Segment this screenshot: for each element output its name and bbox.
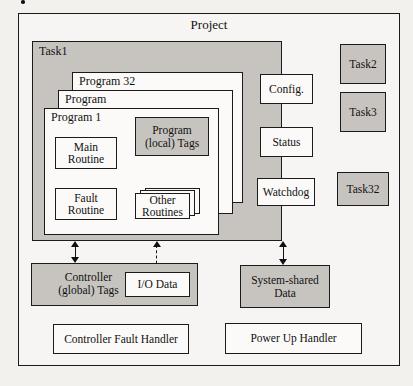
power-up-handler-box: Power Up Handler [225, 323, 362, 354]
controller-fault-handler-box: Controller Fault Handler [53, 324, 189, 354]
task32-box: Task32 [337, 172, 389, 206]
io-data-box: I/O Data [125, 272, 190, 297]
main-routine-box: Main Routine [55, 137, 117, 169]
controller-global-tags-label: Controller (global) Tags [46, 271, 131, 296]
ellipsis-dot-icon [21, 0, 25, 4]
diagram-canvas: Project Task1 Program 32 Program Program… [0, 0, 413, 386]
fault-routine-box: Fault Routine [55, 188, 117, 220]
other-routines-box: Other Routines [135, 193, 190, 219]
task3-box: Task3 [340, 92, 386, 132]
program-1-label: Program 1 [51, 111, 101, 124]
task-config-box: Config. [260, 74, 313, 104]
program-32-label: Program 32 [79, 75, 135, 88]
project-title: Project [18, 18, 400, 32]
task2-box: Task2 [340, 44, 386, 84]
program-label: Program [65, 93, 106, 106]
system-shared-data-box: System-shared Data [240, 265, 330, 308]
task1-label: Task1 [39, 45, 68, 58]
task-watchdog-box: Watchdog [257, 178, 315, 206]
program-local-tags-box: Program (local) Tags [135, 117, 209, 156]
task-status-box: Status [260, 127, 313, 157]
